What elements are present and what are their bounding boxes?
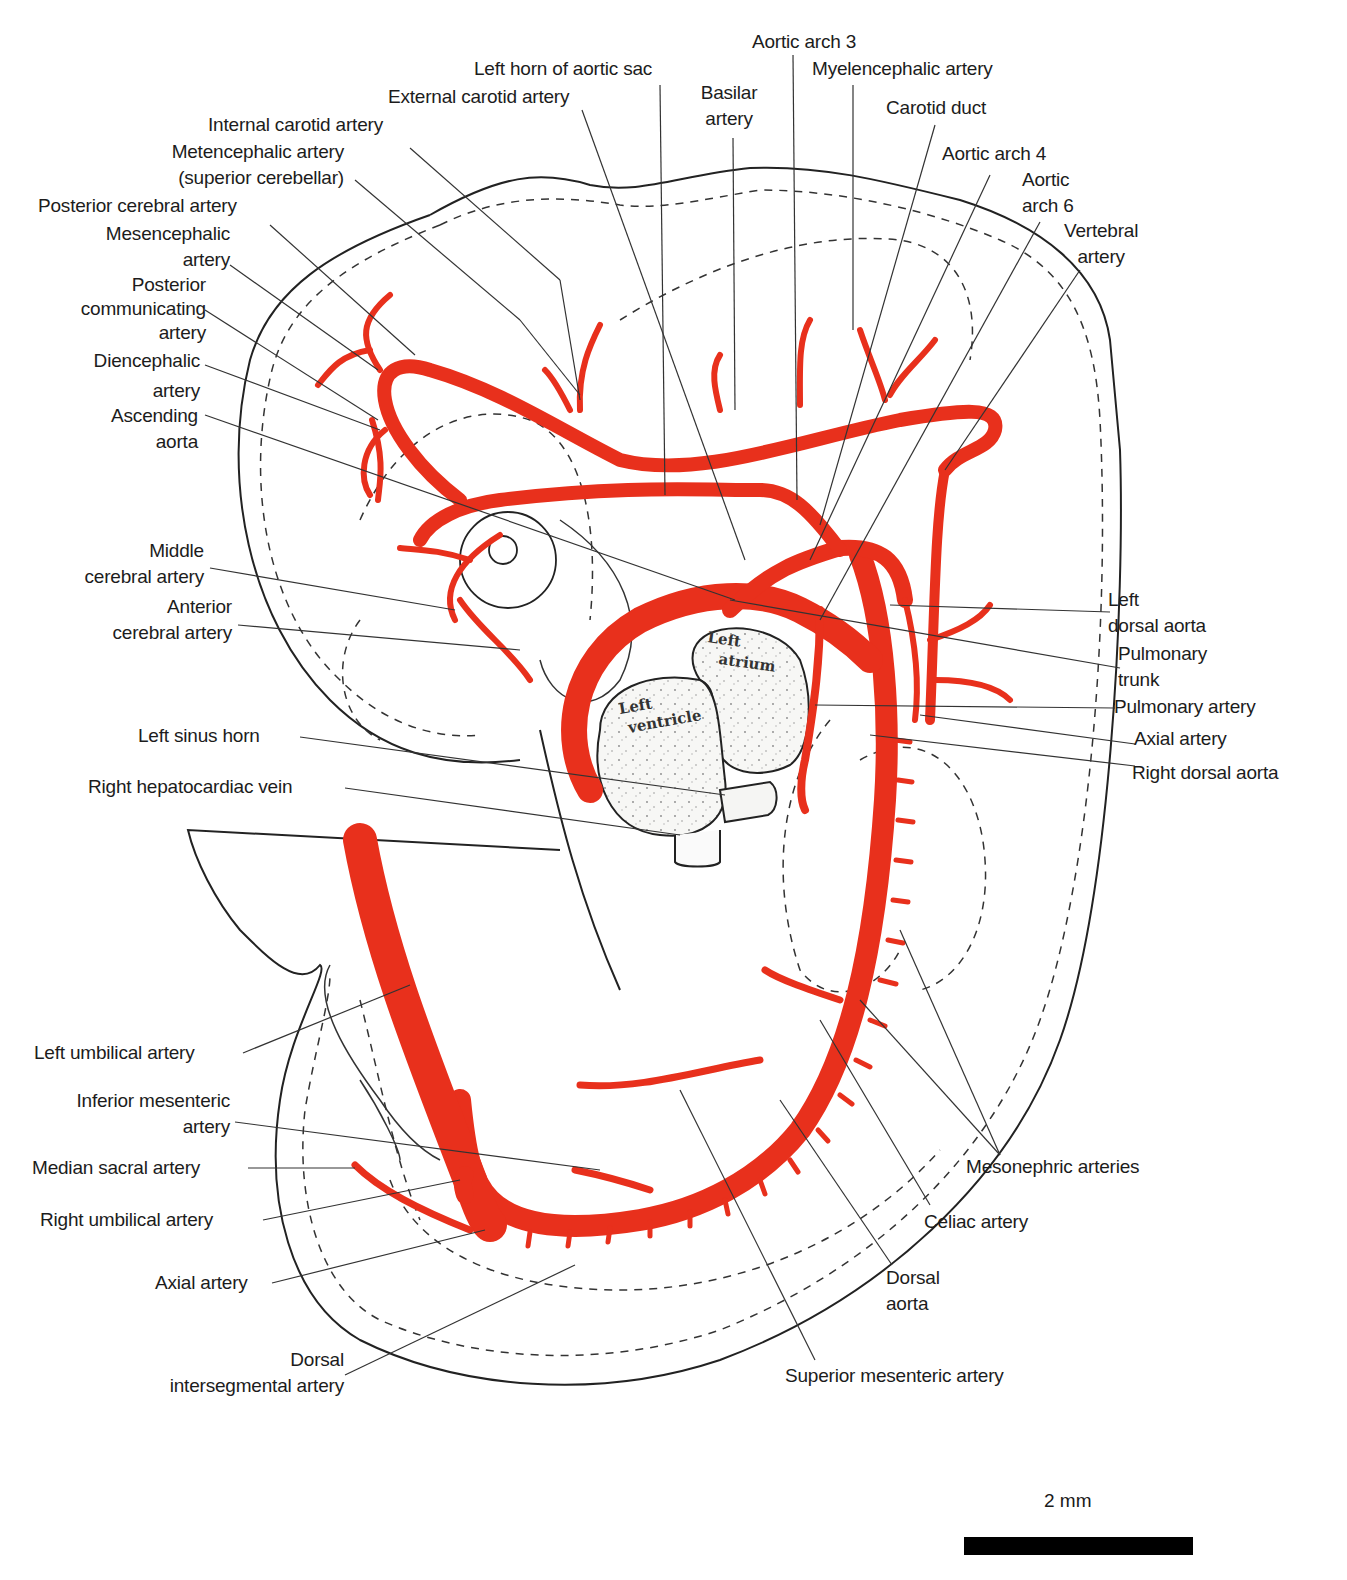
label-right-hepatocardiac-vein: Right hepatocardiac vein — [88, 774, 292, 800]
label-middle-cerebral-artery: Middle cerebral artery — [20, 538, 204, 590]
label-right-dorsal-aorta: Right dorsal aorta — [1132, 760, 1278, 786]
label-dorsal-intersegmental-artery: Dorsal intersegmental artery — [100, 1347, 344, 1399]
superior-mesenteric-artery — [580, 1060, 760, 1086]
label-posterior-communicating-artery: Posterior communicating artery — [20, 273, 206, 345]
left-umbilical-artery — [360, 840, 490, 1225]
optic-vesicle — [460, 512, 556, 608]
label-median-sacral-artery: Median sacral artery — [32, 1155, 200, 1181]
scale-bar — [964, 1537, 1193, 1555]
internal-carotid-artery — [384, 366, 995, 500]
label-mesencephalic-artery: Mesencephalic artery — [40, 221, 230, 273]
dorsal-aorta — [460, 555, 887, 1226]
label-metencephalic-artery: Metencephalic artery (superior cerebella… — [100, 139, 344, 191]
label-aortic-arch-3: Aortic arch 3 — [752, 29, 856, 55]
label-carotid-duct: Carotid duct — [886, 95, 986, 121]
label-basilar-artery: Basilar artery — [690, 80, 768, 132]
label-axial-artery-lower: Axial artery — [155, 1270, 248, 1296]
sinus-venosus — [720, 782, 777, 822]
label-dorsal-aorta: Dorsal aorta — [886, 1265, 940, 1317]
label-left-dorsal-aorta: Left dorsal aorta — [1108, 587, 1206, 639]
label-ascending-aorta: Ascending aorta — [20, 403, 198, 455]
inferior-mesenteric-artery — [575, 1170, 650, 1190]
label-vertebral-artery: Vertebral artery — [1064, 218, 1138, 270]
label-aortic-arch-6: Aortic arch 6 — [1022, 167, 1074, 219]
label-left-umbilical-artery: Left umbilical artery — [34, 1040, 195, 1066]
label-anterior-cerebral-artery: Anterior cerebral artery — [20, 594, 232, 646]
right-umbilical-artery — [463, 1175, 465, 1195]
scale-label: 2 mm — [1044, 1490, 1092, 1512]
label-posterior-cerebral-artery: Posterior cerebral artery — [38, 193, 237, 219]
label-inferior-mesenteric-artery: Inferior mesenteric artery — [20, 1088, 230, 1140]
label-diencephalic-artery: Diencephalic artery — [20, 346, 200, 406]
label-celiac-artery: Celiac artery — [924, 1209, 1028, 1235]
label-axial-artery-upper: Axial artery — [1134, 726, 1227, 752]
label-superior-mesenteric-artery: Superior mesenteric artery — [785, 1363, 1004, 1389]
label-pulmonary-trunk: Pulmonary trunk — [1118, 641, 1207, 693]
label-aortic-arch-4: Aortic arch 4 — [942, 141, 1046, 167]
label-pulmonary-artery: Pulmonary artery — [1114, 694, 1255, 720]
label-right-umbilical-artery: Right umbilical artery — [40, 1207, 213, 1233]
label-myelencephalic-artery: Myelencephalic artery — [812, 56, 993, 82]
label-mesonephric-arteries: Mesonephric arteries — [966, 1154, 1139, 1180]
hepatocardiac-vein — [675, 830, 720, 867]
label-left-horn-aortic-sac: Left horn of aortic sac — [474, 56, 652, 82]
label-internal-carotid-artery: Internal carotid artery — [208, 112, 383, 138]
celiac-artery — [765, 970, 840, 1000]
label-left-sinus-horn: Left sinus horn — [138, 723, 260, 749]
label-external-carotid-artery: External carotid artery — [388, 84, 569, 110]
